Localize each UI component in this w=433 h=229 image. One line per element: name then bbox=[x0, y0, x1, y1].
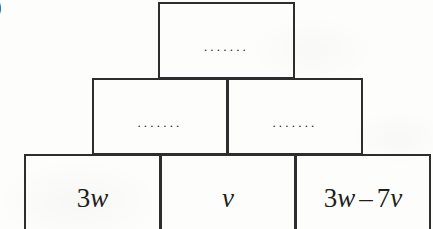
minus-operator: – bbox=[355, 183, 377, 213]
expression-bottom-middle: v bbox=[222, 185, 234, 212]
pyramid-cell-bottom-middle: v bbox=[160, 154, 296, 229]
variable-w-right: w bbox=[337, 183, 355, 213]
expression-bottom-left: 3w bbox=[77, 185, 109, 212]
coefficient-3-right: 3 bbox=[324, 183, 338, 213]
blank-dots-middle-right: ....... bbox=[272, 116, 317, 129]
pyramid-cell-top[interactable]: ....... bbox=[158, 2, 295, 79]
variable-v-right: v bbox=[390, 183, 402, 213]
variable-w: w bbox=[90, 183, 108, 213]
pyramid-cell-bottom-right: 3w–7v bbox=[295, 154, 431, 229]
pyramid-cell-bottom-left: 3w bbox=[24, 154, 161, 229]
variable-v: v bbox=[222, 183, 234, 213]
question-label-paren: ) bbox=[0, 0, 2, 18]
pyramid-cell-middle-left[interactable]: ....... bbox=[92, 78, 228, 155]
blank-dots-top: ....... bbox=[204, 40, 249, 53]
blank-dots-middle-left: ....... bbox=[137, 116, 182, 129]
pyramid-cell-middle-right[interactable]: ....... bbox=[227, 78, 363, 155]
coefficient-7: 7 bbox=[377, 183, 391, 213]
coefficient-3: 3 bbox=[77, 183, 91, 213]
expression-bottom-right: 3w–7v bbox=[324, 185, 403, 212]
figure-canvas: ) ....... ....... ....... 3w v 3w–7v bbox=[0, 0, 433, 229]
